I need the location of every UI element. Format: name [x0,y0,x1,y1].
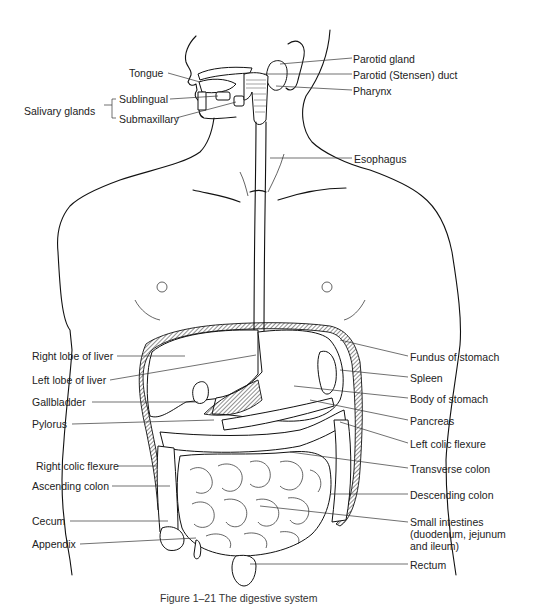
label-tongue: Tongue [129,67,163,79]
label-ascending-colon: Ascending colon [32,480,109,492]
label-fundus-of-stomach: Fundus of stomach [410,351,499,363]
label-left-lobe-of-liver: Left lobe of liver [32,374,106,386]
label-parotid-gland: Parotid gland [353,53,415,65]
label-left-colic-flexure: Left colic flexure [410,438,486,450]
label-body-of-stomach: Body of stomach [410,393,488,405]
nipple-left [322,282,332,292]
submaxillary-gland [234,96,244,106]
collarbone-left [278,188,346,200]
label-transverse-colon: Transverse colon [410,463,490,475]
label-rectum: Rectum [410,559,446,571]
label-cecum: Cecum [32,515,65,527]
pharynx [244,73,268,125]
label-esophagus: Esophagus [354,153,407,165]
label-pylorus: Pylorus [32,418,67,430]
gallbladder [193,382,209,404]
ascending-colon [157,446,178,532]
label-parotid-duct: Parotid (Stensen) duct [353,69,457,81]
label-sublingual: Sublingual [119,93,168,105]
label-right-colic-flexure: Right colic flexure [36,460,119,472]
descending-colon [332,420,351,522]
label-pancreas: Pancreas [410,415,454,427]
nipple-right [157,282,167,292]
label-right-lobe-of-liver: Right lobe of liver [32,350,113,362]
rectum [232,555,256,586]
label-spleen: Spleen [410,372,443,384]
label-small-intestines: Small intestines (duodenum, jejunum and … [410,516,520,552]
label-gallbladder: Gallbladder [32,396,86,408]
ear-outline [286,41,304,90]
digestive-system-illustration [0,0,535,605]
label-submaxillary: Submaxillary [119,113,179,125]
sublingual-gland [216,92,230,100]
label-salivary-glands: Salivary glands [24,105,95,117]
small-intestines [177,452,331,556]
collarbone-right [193,190,240,202]
label-descending-colon: Descending colon [410,489,493,501]
figure-caption: Figure 1–21 The digestive system [160,592,317,604]
label-pharynx: Pharynx [353,85,392,97]
label-appendix: Appendix [32,538,76,550]
esophagus [254,122,256,340]
